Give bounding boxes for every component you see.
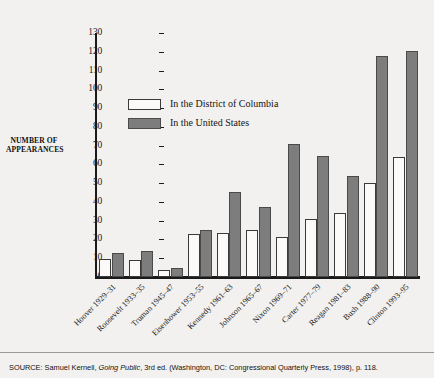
source-title: Going Public <box>98 363 140 372</box>
y-axis-title-line: NUMBER OF <box>6 136 62 145</box>
bar <box>129 260 141 277</box>
bar <box>334 213 346 277</box>
bar <box>112 253 124 277</box>
y-tick: 70 <box>62 146 102 147</box>
chart-legend: In the District of ColumbiaIn the United… <box>128 96 278 134</box>
bar <box>393 157 405 277</box>
bar <box>259 207 271 277</box>
y-tick: 80 <box>62 127 102 128</box>
bar-group <box>188 33 213 277</box>
y-axis-title-line: APPEARANCES <box>6 145 62 154</box>
y-axis-title: NUMBER OFAPPEARANCES <box>6 136 62 155</box>
y-tick: 120 <box>62 52 102 53</box>
bar-group <box>334 33 359 277</box>
bar-group <box>246 33 271 277</box>
y-tick: 110 <box>62 71 102 72</box>
bar <box>364 183 376 277</box>
y-tick: 0 <box>62 277 102 278</box>
source-suffix: , 3rd ed. (Washington, DC: Congressional… <box>140 363 378 372</box>
bar-group <box>393 33 418 277</box>
bar <box>200 230 212 277</box>
legend-swatch <box>128 118 161 129</box>
y-tick-mark <box>159 277 164 278</box>
bar <box>229 192 241 277</box>
bar <box>141 251 153 277</box>
source-note: SOURCE: Samuel Kernell, Going Public, 3r… <box>9 363 378 372</box>
bar <box>158 270 170 277</box>
legend-label: In the United States <box>170 118 249 128</box>
source-prefix: SOURCE: Samuel Kernell, <box>9 363 98 372</box>
chart-plot-area: 0102030405060708090100110120130 NUMBER O… <box>0 0 434 378</box>
y-tick: 20 <box>62 239 102 240</box>
y-tick: 10 <box>62 258 102 259</box>
bar-group <box>217 33 242 277</box>
y-tick: 50 <box>62 183 102 184</box>
bar <box>171 268 183 277</box>
bar <box>317 156 329 277</box>
y-tick: 60 <box>62 164 102 165</box>
bar <box>188 234 200 277</box>
y-tick: 30 <box>62 221 102 222</box>
bar-group <box>305 33 330 277</box>
bar-group <box>276 33 301 277</box>
bar <box>276 237 288 277</box>
bar <box>288 144 300 277</box>
legend-swatch <box>128 99 161 110</box>
x-axis-tick-labels: Hoover 1929–31Roosevelt 1933–35Truman 19… <box>0 279 434 349</box>
legend-item: In the United States <box>128 115 278 131</box>
bar <box>217 233 229 277</box>
bar <box>376 56 388 277</box>
y-tick: 40 <box>62 202 102 203</box>
bar-series-container <box>97 33 420 277</box>
bar-group <box>129 33 154 277</box>
bar-group <box>364 33 389 277</box>
bar <box>305 219 317 277</box>
y-tick: 100 <box>62 89 102 90</box>
bar <box>347 176 359 277</box>
bar <box>99 259 111 277</box>
bar <box>406 51 418 277</box>
source-divider <box>0 352 434 353</box>
figure-container: 0102030405060708090100110120130 NUMBER O… <box>0 0 434 378</box>
y-tick: 130 <box>62 33 102 34</box>
bar-group <box>158 33 183 277</box>
bar <box>246 230 258 277</box>
y-tick: 90 <box>62 108 102 109</box>
bar-group <box>99 33 124 277</box>
legend-label: In the District of Columbia <box>170 99 278 109</box>
legend-item: In the District of Columbia <box>128 96 278 112</box>
